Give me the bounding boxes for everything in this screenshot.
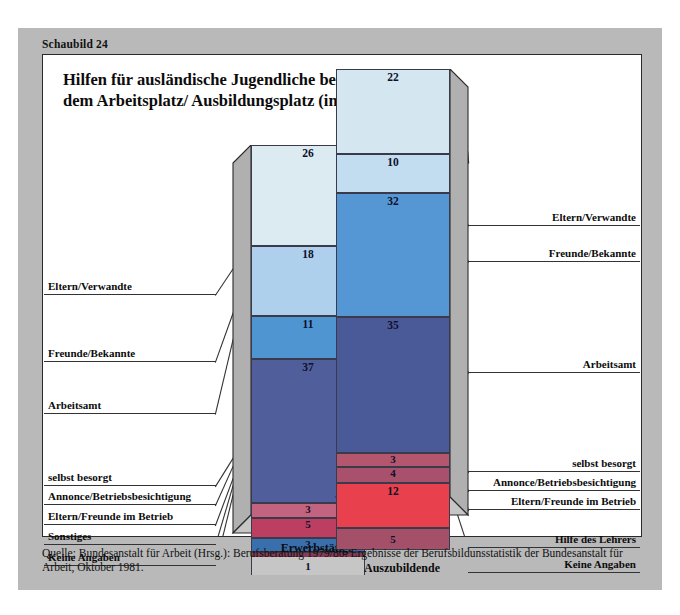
source-note: Quelle: Bundesanstalt für Arbeit (Hrsg.)… [42, 546, 646, 575]
left-label-sonstiges: Sonstiges [44, 525, 216, 545]
segment-right-1: 22 [336, 69, 450, 154]
segment-right-4: 35 [336, 317, 450, 453]
segment-right-3: 32 [336, 193, 450, 317]
figure-root: Schaubild 24 Hilfen für ausländische Jug… [0, 0, 680, 615]
segment-right-7: 12 [336, 483, 450, 528]
segment-right-2: 10 [336, 154, 450, 193]
left-label-eltern-freunde-im-betrieb: Eltern/Freunde im Betrieb [44, 505, 216, 525]
segment-right-5: 3 [336, 453, 450, 467]
left-label-eltern-verwandte: Eltern/Verwandte [44, 235, 216, 295]
left-label-annonce-betriebsbesichtigung: Annonce/Betriebsbesichtigung [44, 486, 216, 505]
left-label-selbst-besorgt: selbst besorgt [44, 414, 216, 486]
chart-container: Hilfen für ausländische Jugendliche bei … [42, 54, 642, 537]
bar-auszubildende: 22 10 32 35 3 4 12 5 Auszubildende [327, 69, 502, 549]
figure-number: Schaubild 24 [42, 38, 108, 50]
segment-right-6: 4 [336, 467, 450, 483]
left-label-freunde-bekannte: Freunde/Bekannte [44, 295, 216, 362]
left-label-arbeitsamt: Arbeitsamt [44, 362, 216, 414]
